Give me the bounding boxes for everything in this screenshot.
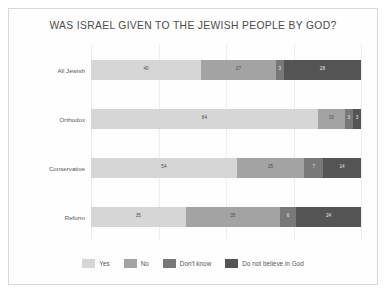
- bar-track: 5425714: [91, 158, 361, 178]
- bar-segment[interactable]: 28: [284, 60, 361, 80]
- bar-segment-value: 3: [348, 116, 351, 121]
- bar-segment-value: 6: [287, 214, 290, 219]
- bar-segment-value: 14: [340, 165, 345, 170]
- bar-segment[interactable]: 3: [276, 60, 284, 80]
- bar-segment[interactable]: 54: [91, 158, 237, 178]
- legend-label: No: [141, 260, 149, 267]
- bar-segment-value: 35: [136, 214, 141, 219]
- legend-label: Do not believe in God: [242, 260, 303, 267]
- legend-swatch: [225, 259, 238, 268]
- bar-segment[interactable]: 7: [304, 158, 323, 178]
- bar-segment-value: 24: [326, 214, 331, 219]
- bar-segment-value: 35: [230, 214, 235, 219]
- bar-segment-value: 25: [268, 165, 273, 170]
- bar-segment[interactable]: 3: [345, 109, 353, 129]
- chart-title: WAS ISRAEL GIVEN TO THE JEWISH PEOPLE BY…: [9, 20, 377, 31]
- bar-segment-value: 7: [312, 165, 315, 170]
- bar-track: 4027328: [91, 60, 361, 80]
- bar-segment[interactable]: 25: [237, 158, 305, 178]
- legend-label: Yes: [99, 260, 109, 267]
- plot-area: All Jewish4027328Orthodox841033Conservat…: [31, 45, 361, 241]
- legend-item[interactable]: No: [124, 259, 149, 268]
- bar-segment-value: 10: [329, 116, 334, 121]
- legend-swatch: [124, 259, 137, 268]
- bar-row: Reform3535624: [31, 192, 361, 241]
- bar-track: 841033: [91, 109, 361, 129]
- bar-segment[interactable]: 84: [91, 109, 318, 129]
- bar-row: All Jewish4027328: [31, 45, 361, 94]
- bar-segment-value: 28: [320, 67, 325, 72]
- bar-segment[interactable]: 6: [280, 207, 296, 227]
- bar-row: Conservative5425714: [31, 143, 361, 192]
- bar-segment-value: 84: [202, 116, 207, 121]
- bar-segment-value: 40: [144, 67, 149, 72]
- bar-segment[interactable]: 35: [91, 207, 186, 227]
- category-label: Conservative: [31, 164, 85, 171]
- bar-segment[interactable]: 27: [201, 60, 275, 80]
- legend-swatch: [163, 259, 176, 268]
- bar-segment[interactable]: 14: [323, 158, 361, 178]
- bar-segment-value: 3: [278, 67, 281, 72]
- legend-swatch: [82, 259, 95, 268]
- bar-segment-value: 27: [236, 67, 241, 72]
- bar-segment[interactable]: 24: [296, 207, 361, 227]
- category-label: Orthodox: [31, 115, 85, 122]
- bar-segment[interactable]: 3: [353, 109, 361, 129]
- legend-item[interactable]: Don't know: [163, 259, 211, 268]
- legend-item[interactable]: Do not believe in God: [225, 259, 303, 268]
- legend-item[interactable]: Yes: [82, 259, 109, 268]
- legend-label: Don't know: [180, 260, 211, 267]
- category-label: All Jewish: [31, 66, 85, 73]
- bar-segment[interactable]: 10: [318, 109, 345, 129]
- chart-card: WAS ISRAEL GIVEN TO THE JEWISH PEOPLE BY…: [8, 8, 378, 285]
- bar-segment-value: 54: [161, 165, 166, 170]
- gridline: [361, 45, 362, 241]
- bar-segment[interactable]: 40: [91, 60, 201, 80]
- bar-segment[interactable]: 35: [186, 207, 281, 227]
- bar-row: Orthodox841033: [31, 94, 361, 143]
- bar-track: 3535624: [91, 207, 361, 227]
- chart-legend: YesNoDon't knowDo not believe in God: [9, 259, 377, 268]
- category-label: Reform: [31, 213, 85, 220]
- bar-segment-value: 3: [356, 116, 359, 121]
